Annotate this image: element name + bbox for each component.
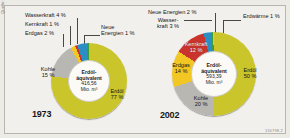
graphic-code: 116798.2 — [265, 128, 283, 133]
callout-wasserkraft-1973: Wasserkraft 4 % — [25, 12, 66, 18]
callout-kernkraft-1973: Kernkraft 1 % — [25, 21, 59, 27]
callout-wasserkraft-2002: Wasser- kraft 3 % — [151, 17, 185, 30]
slice-label-kohle-2002: Kohle 20 % — [187, 95, 215, 108]
infographic-root: Quelle: Agency for Natural Resources and… — [0, 0, 290, 138]
slice-label-kohle-1973: Kohle 15 % — [32, 66, 64, 79]
callout-erdgas-1973: Erdgas 2 % — [25, 30, 54, 36]
leader-neue-1973 — [84, 35, 100, 36]
erdoel-pct-2002: 50 % — [237, 73, 263, 79]
center-unit-2002: Mio. m³ — [206, 80, 223, 85]
leader-erdwaerme-vert-2002 — [223, 20, 224, 33]
callout-erdwaerme-2002: Erdwärme 1 % — [243, 13, 280, 19]
slice-label-kernkraft-2002: Kernkraft 12 % — [180, 41, 212, 54]
neue-line2-1973: Energien 1 % — [101, 30, 135, 36]
pie-center-2002: Erdöl- äquivalent 593,39 Mio. m³ — [191, 51, 237, 97]
slice-label-erdoel-2002: Erdöl 50 % — [237, 67, 263, 80]
slice-label-erdoel-1973: Erdöl 77 % — [104, 88, 130, 101]
callout-neue-energien-2002: Neue Energien 2 % — [148, 9, 197, 15]
year-label-1973: 1973 — [32, 109, 51, 119]
wasserkraft-line2-2002: kraft 3 % — [151, 23, 185, 29]
leader-wasserkraft-1973 — [77, 18, 78, 44]
kernkraft-pct-2002: 12 % — [180, 47, 212, 53]
leader-neue-vert-2002 — [215, 13, 216, 33]
center-unit-1973: Mio. m³ — [81, 87, 98, 92]
leader-wasserkraft-2002 — [184, 20, 212, 21]
kohle-pct-1973: 15 % — [32, 72, 64, 78]
leader-erdwaerme-2002 — [223, 20, 241, 21]
kohle-pct-2002: 20 % — [187, 101, 215, 107]
erdoel-pct-1973: 77 % — [104, 94, 130, 100]
leader-kernkraft-1973 — [70, 26, 71, 45]
year-label-2002: 2002 — [160, 110, 179, 120]
leader-erdgas-1973 — [63, 34, 64, 47]
erdgas-pct-2002: 14 % — [166, 68, 196, 74]
callout-neue-energien-1973: Neue Energien 1 % — [101, 24, 135, 37]
slice-label-erdgas-2002: Erdgas 14 % — [166, 62, 196, 75]
source-credit: Quelle: Agency for Natural Resources and… — [0, 0, 8, 14]
